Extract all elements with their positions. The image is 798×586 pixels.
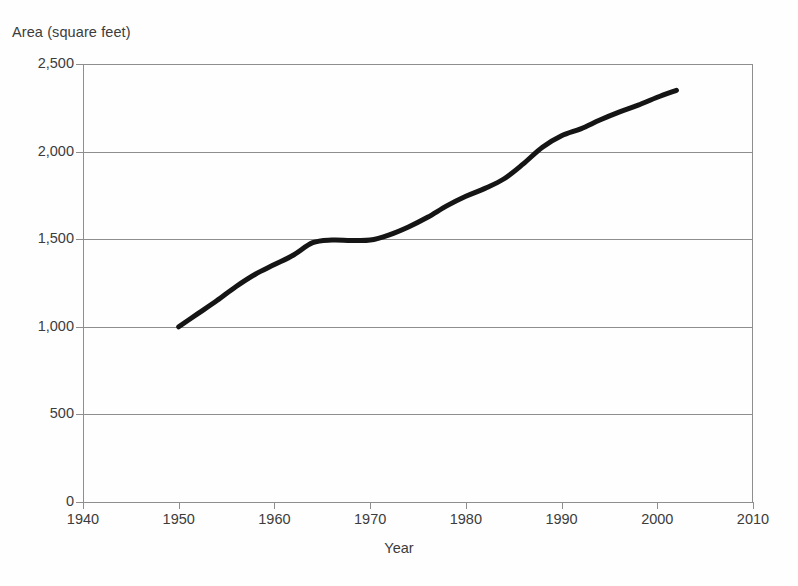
plot-area (83, 64, 753, 502)
x-tick-mark-1940 (83, 502, 84, 509)
gridline-y-2500 (83, 64, 753, 65)
gridline-y-2000 (83, 152, 753, 153)
x-tick-label-1940: 1940 (53, 512, 113, 527)
gridline-y-0 (83, 502, 753, 503)
y-tick-mark-1500 (76, 239, 83, 240)
x-tick-mark-2000 (657, 502, 658, 509)
x-tick-label-1970: 1970 (340, 512, 400, 527)
x-tick-mark-1960 (274, 502, 275, 509)
x-tick-label-1960: 1960 (244, 512, 304, 527)
y-tick-label-2500: 2,500 (38, 56, 74, 71)
y-tick-label-0: 0 (66, 494, 74, 509)
y-tick-label-2000: 2,000 (38, 144, 74, 159)
y-tick-label-1000: 1,000 (38, 319, 74, 334)
gridline-y-1500 (83, 239, 753, 240)
y-tick-mark-1000 (76, 327, 83, 328)
y-tick-mark-2500 (76, 64, 83, 65)
x-tick-label-1980: 1980 (436, 512, 496, 527)
x-axis-title: Year (0, 540, 798, 556)
x-tick-label-2000: 2000 (627, 512, 687, 527)
y-tick-label-1500: 1,500 (38, 231, 74, 246)
y-tick-mark-0 (76, 502, 83, 503)
y-tick-label-500: 500 (50, 406, 74, 421)
y-axis-title: Area (square feet) (12, 24, 131, 40)
y-tick-mark-500 (76, 414, 83, 415)
x-tick-mark-1980 (466, 502, 467, 509)
x-tick-mark-1950 (179, 502, 180, 509)
x-tick-label-1990: 1990 (532, 512, 592, 527)
x-tick-mark-2010 (753, 502, 754, 509)
gridline-y-1000 (83, 327, 753, 328)
x-tick-label-2010: 2010 (723, 512, 783, 527)
plot-right-border (752, 64, 753, 502)
y-tick-mark-2000 (76, 152, 83, 153)
chart-container: Area (square feet) Year 05001,0001,5002,… (0, 0, 798, 586)
x-tick-mark-1990 (562, 502, 563, 509)
x-tick-label-1950: 1950 (149, 512, 209, 527)
y-axis-line (83, 64, 84, 502)
gridline-y-500 (83, 414, 753, 415)
x-tick-mark-1970 (370, 502, 371, 509)
